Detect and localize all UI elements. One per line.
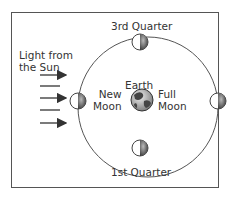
- first-quarter-moon-icon: [132, 140, 148, 156]
- first-quarter-label: 1st Quarter: [111, 166, 171, 178]
- third-quarter-moon-icon: [132, 34, 148, 50]
- full-moon-icon: [210, 93, 226, 109]
- light-label-line1: Light from: [19, 49, 73, 61]
- full-moon-label-line1: Full: [158, 88, 187, 100]
- full-moon-label-line2: Moon: [158, 100, 187, 112]
- new-moon-icon: [70, 93, 86, 109]
- sunlight-arrows: [40, 75, 66, 123]
- earth-icon: [131, 89, 153, 111]
- third-quarter-label: 3rd Quarter: [111, 20, 172, 32]
- full-moon-label: Full Moon: [158, 88, 187, 112]
- light-label-line2: the Sun: [19, 61, 73, 73]
- light-label: Light from the Sun: [19, 49, 73, 73]
- new-moon-label-line1: New: [93, 88, 122, 100]
- earth-label: Earth: [125, 79, 153, 91]
- new-moon-label: New Moon: [93, 88, 122, 112]
- new-moon-label-line2: Moon: [93, 100, 122, 112]
